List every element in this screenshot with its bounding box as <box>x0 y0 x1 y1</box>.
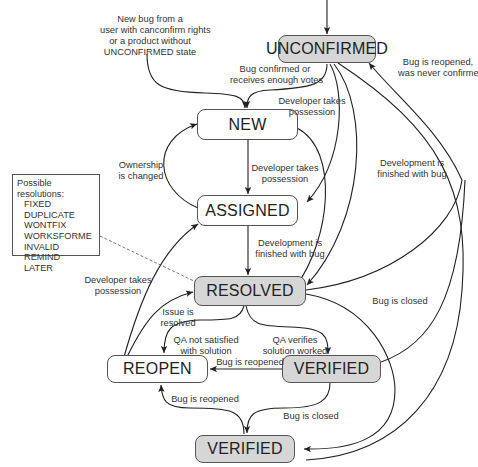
resolution-item: FIXED <box>17 199 95 210</box>
state-verified-closed: VERIFIED <box>195 435 295 463</box>
label-line: Developer takes <box>78 275 158 286</box>
label-reopened-low: Bug is reopened <box>170 394 240 405</box>
edge-verified-bottom-reopen <box>161 385 244 434</box>
label-dev-finished-mid: Development is finished with bug <box>250 238 330 260</box>
label-line: was never confirmed <box>398 68 478 79</box>
state-verified: VERIFIED <box>282 355 381 383</box>
label-line: with solution <box>166 346 246 357</box>
label-line: QA verifies <box>255 335 335 346</box>
label-bug-closed-right: Bug is closed <box>365 296 435 307</box>
label-line: Development is <box>372 158 452 169</box>
label-line: possession <box>78 286 158 297</box>
label-line: resolved <box>158 318 198 329</box>
label-line: Developer takes <box>245 163 325 174</box>
label-reopened-mid: Bug is reopened <box>215 357 285 368</box>
label-line: Bug is reopened <box>215 357 285 368</box>
label-line: Developer takes <box>272 96 352 107</box>
edge-unconfirmed-verified-bottom <box>306 63 463 460</box>
label-bug-confirmed: Bug confirmed or receives enough votes <box>230 64 320 86</box>
state-resolved: RESOLVED <box>194 276 306 306</box>
label-line: possession <box>272 107 352 118</box>
label-new-bug: New bug from a user with canconfirm righ… <box>100 14 200 58</box>
label-line: UNCONFIRMED state <box>100 47 200 58</box>
label-line: possession <box>245 174 325 185</box>
label-line: New bug from a <box>100 14 200 25</box>
label-line: finished with bug <box>250 249 330 260</box>
state-unconfirmed: UNCONFIRMED <box>278 35 376 63</box>
label-issue-resolved: Issue is resolved <box>158 307 198 329</box>
label-line: Bug confirmed or <box>230 64 320 75</box>
resolution-item: DUPLICATE <box>17 210 95 221</box>
label-line: receives enough votes <box>230 75 320 86</box>
label-dev-takes-mid: Developer takes possession <box>245 163 325 185</box>
label-line: is changed <box>116 171 166 182</box>
resolutions-title: Possible resolutions: <box>17 178 95 199</box>
resolution-item: INVALID <box>17 242 95 253</box>
label-line: finished with bug <box>372 169 452 180</box>
label-dev-takes-left: Developer takes possession <box>78 275 158 297</box>
possible-resolutions-box: Possible resolutions: FIXED DUPLICATE WO… <box>12 174 100 256</box>
label-line: user with canconfirm rights <box>100 25 200 36</box>
label-line: Bug is closed <box>365 296 435 307</box>
label-line: Ownership <box>116 160 166 171</box>
label-qa-not-satisfied: QA not satisfied with solution <box>166 335 246 357</box>
label-dev-finished-right: Development is finished with bug <box>372 158 452 180</box>
label-line: Issue is <box>158 307 198 318</box>
label-line: solution worked <box>255 346 335 357</box>
resolution-item: REMIND <box>17 252 95 263</box>
state-assigned: ASSIGNED <box>197 195 298 226</box>
state-reopen: REOPEN <box>107 355 208 383</box>
resolution-item: LATER <box>17 263 95 274</box>
label-line: QA not satisfied <box>166 335 246 346</box>
resolution-item: WORKSFORME <box>17 231 95 242</box>
label-line: Bug is closed <box>276 411 346 422</box>
label-line: Bug is reopened, <box>398 57 478 68</box>
label-line: Development is <box>250 238 330 249</box>
label-bug-closed-low: Bug is closed <box>276 411 346 422</box>
label-ownership-changed: Ownership is changed <box>116 160 166 182</box>
edge-verified-verified-bottom <box>247 383 330 433</box>
label-reopened-never-confirmed: Bug is reopened, was never confirmed <box>398 57 478 79</box>
resolution-item: WONTFIX <box>17 220 95 231</box>
label-qa-verifies: QA verifies solution worked <box>255 335 335 357</box>
edge-new-resolved <box>296 128 326 286</box>
label-line: or a product without <box>100 36 200 47</box>
edge-assigned-new <box>164 124 198 208</box>
label-dev-takes-top: Developer takes possession <box>272 96 352 118</box>
label-line: Bug is reopened <box>170 394 240 405</box>
